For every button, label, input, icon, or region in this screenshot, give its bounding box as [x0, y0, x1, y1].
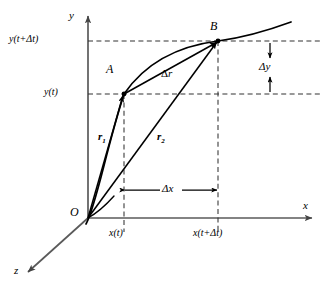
vector-r2-label: r2	[157, 131, 165, 145]
point-b-marker	[216, 39, 221, 44]
vector-diagram-figure: y x z O A B y(t+Δt) y(t) x(t) x(t+Δt) r1…	[0, 0, 333, 295]
delta-x-label: Δx	[162, 183, 173, 194]
vector-delta-r-label: Δr	[161, 68, 172, 79]
trajectory-curve	[86, 22, 291, 224]
y-axis-label: y	[69, 10, 74, 21]
z-axis	[28, 218, 88, 272]
vector-r1-label: r1	[98, 131, 106, 145]
tick-label-y-lower: y(t)	[44, 87, 58, 97]
guide-lines	[88, 41, 322, 232]
vector-r1	[88, 96, 123, 219]
vector-r1-subscript: 1	[102, 137, 106, 145]
x-axis-label: x	[303, 200, 308, 211]
point-a-marker	[122, 92, 127, 97]
diagram-canvas	[0, 0, 333, 295]
delta-y-label: Δy	[259, 61, 270, 72]
tick-label-y-upper: y(t+Δt)	[9, 34, 38, 44]
z-axis-label: z	[14, 265, 18, 276]
tick-label-x-upper: x(t+Δt)	[193, 228, 222, 238]
figure-caption	[0, 279, 333, 295]
tick-label-x-lower: x(t)	[109, 228, 123, 238]
point-b-label: B	[210, 20, 217, 32]
point-a-label: A	[106, 63, 113, 75]
vector-delta-r-symbol: r	[168, 67, 172, 79]
vector-r2-subscript: 2	[161, 137, 165, 145]
origin-label: O	[70, 206, 79, 218]
